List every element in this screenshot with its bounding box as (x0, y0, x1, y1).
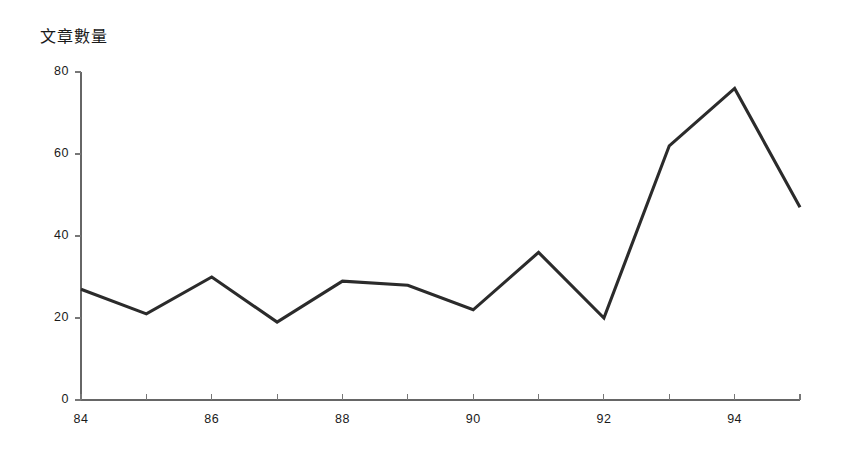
x-tick-label: 84 (74, 412, 89, 426)
data-series-group (81, 88, 800, 322)
y-tick-label: 60 (54, 146, 69, 160)
chart-container: 文章數量 020406080 848688909294 (0, 0, 845, 460)
line-chart-plot: 020406080 848688909294 (0, 0, 845, 460)
y-tick-label: 80 (54, 64, 69, 78)
x-tick-label: 90 (466, 412, 481, 426)
x-tick-label: 88 (335, 412, 350, 426)
y-tick-label: 40 (54, 228, 69, 242)
y-tick-label: 0 (62, 392, 69, 406)
x-tick-label: 86 (204, 412, 219, 426)
y-tick-label: 20 (54, 310, 69, 324)
data-line-series (81, 88, 800, 322)
y-axis: 020406080 (54, 64, 81, 406)
x-tick-label: 94 (727, 412, 742, 426)
x-tick-label: 92 (596, 412, 611, 426)
x-axis: 848688909294 (74, 394, 800, 426)
